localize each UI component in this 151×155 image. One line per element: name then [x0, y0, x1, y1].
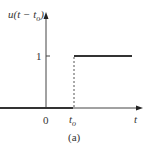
y-axis-label: u(t − to) [8, 9, 44, 23]
figure-caption: (a) [68, 132, 80, 143]
x-tick-label-zero: 0 [43, 115, 49, 126]
x-axis-label: t [134, 114, 137, 125]
y-axis-arrow-icon [44, 12, 49, 19]
x-tick-label-to: to [69, 114, 76, 128]
x-axis-arrow-icon [136, 106, 143, 111]
y-tick-label-one: 1 [36, 51, 42, 62]
